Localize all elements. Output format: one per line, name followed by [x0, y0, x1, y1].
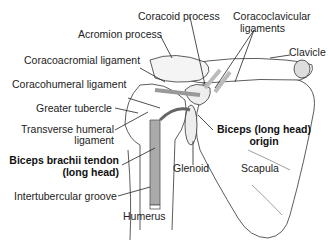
- label-biceps-origin-1: Biceps (long head): [212, 123, 316, 135]
- label-glenoid: Glenoid: [173, 162, 209, 174]
- label-clavicle: Clavicle: [289, 46, 326, 58]
- label-coracoid-process: Coracoid process: [138, 10, 220, 22]
- label-coracoclavicular-ligaments-1: Coracoclavicular: [233, 10, 303, 22]
- label-transverse-humeral-ligament-2: ligament: [8, 134, 114, 146]
- label-coracoacromial-ligament: Coracoacromial ligament: [24, 54, 140, 66]
- label-scapula: Scapula: [241, 162, 279, 174]
- label-greater-tubercle: Greater tubercle: [36, 102, 112, 114]
- label-intertubercular-groove: Intertubercular groove: [14, 190, 117, 202]
- label-coracohumeral-ligament: Coracohumeral ligament: [12, 78, 126, 90]
- label-biceps-origin-2: origin: [212, 135, 316, 147]
- label-biceps-brachii-tendon-1: Biceps brachii tendon: [0, 154, 119, 166]
- label-coracoclavicular-ligaments-2: ligaments: [240, 22, 285, 34]
- label-acromion-process: Acromion process: [78, 28, 162, 40]
- label-humerus: Humerus: [123, 210, 166, 222]
- label-biceps-brachii-tendon-2: (long head): [0, 166, 119, 178]
